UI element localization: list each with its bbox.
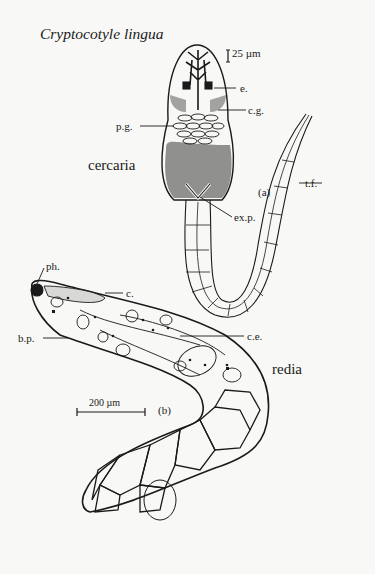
pharynx [31, 284, 43, 296]
scale-bar-25um [226, 50, 230, 62]
scale-label-cercaria: 25 µm [232, 48, 261, 59]
scale-label-redia: 200 µm [89, 398, 120, 408]
cercaria-body [162, 45, 233, 200]
label-eyespot: e. [240, 83, 248, 94]
label-pharynx: ph. [46, 261, 60, 272]
label-birth-pore: b.p. [18, 333, 35, 344]
panel-label-b: (b) [158, 405, 171, 416]
label-tail-fin: t.f. [305, 178, 317, 189]
label-excretory-pore: ex.p. [234, 212, 255, 223]
eyespot-right [205, 82, 212, 89]
stage-label-cercaria: cercaria [88, 158, 135, 173]
caecum [44, 286, 105, 302]
stage-label-redia: redia [272, 362, 302, 377]
figure-page: Cryptocotyle lingua [0, 0, 375, 574]
scale-bar-200um [77, 408, 145, 416]
figure-drawing [0, 0, 375, 574]
label-caecum: c. [126, 288, 134, 299]
label-penetration-glands: p.g. [116, 121, 133, 132]
panel-label-a: (a) [258, 187, 270, 198]
label-cercarial-embryos: c.e. [247, 331, 262, 342]
eyespot-left [183, 82, 190, 89]
label-cystogenous-glands: c.g. [248, 105, 264, 116]
